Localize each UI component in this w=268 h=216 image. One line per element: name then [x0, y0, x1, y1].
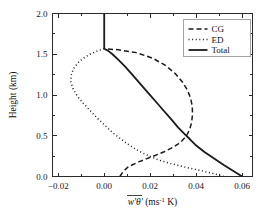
legend-label-cg: CG — [212, 24, 225, 34]
y-tick-label: 1.0 — [36, 90, 48, 100]
x-tick-label: −0.02 — [48, 181, 69, 191]
x-axis-title: w'θ' (ms-1 K) — [128, 195, 178, 208]
legend-label-ed: ED — [212, 35, 224, 45]
series-line-cg — [104, 49, 192, 177]
figure-container: −0.020.000.020.040.060.00.51.01.52.0 Hei… — [0, 0, 268, 216]
legend-label-total: Total — [212, 45, 231, 55]
y-tick-label: 0.5 — [36, 131, 48, 141]
x-tick-label: 0.06 — [234, 181, 250, 191]
x-tick-label: 0.00 — [96, 181, 112, 191]
y-tick-label: 2.0 — [36, 9, 48, 19]
x-tick-label: 0.02 — [142, 181, 158, 191]
y-axis-title: Height (km) — [8, 72, 19, 119]
xy-plot: −0.020.000.020.040.060.00.51.01.52.0 Hei… — [0, 0, 268, 216]
legend[interactable]: CGEDTotal — [184, 20, 251, 57]
y-tick-label: 1.5 — [36, 49, 48, 59]
series-line-ed — [71, 49, 224, 177]
x-tick-label: 0.04 — [188, 181, 204, 191]
y-tick-label: 0.0 — [36, 172, 48, 182]
